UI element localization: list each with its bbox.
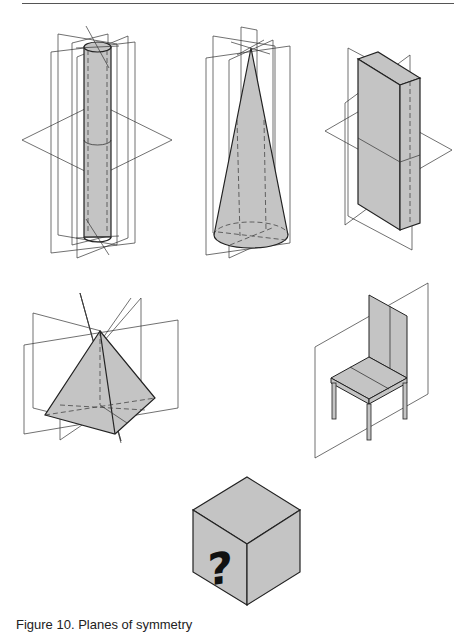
chair-figure [315,283,428,458]
figure-caption: Figure 10. Planes of symmetry [16,617,192,632]
prism-figure [325,48,452,250]
cylinder-figure [22,26,172,258]
question-mark-icon: ? [207,541,233,595]
cone-figure [206,27,290,258]
pyramid-figure [24,293,178,443]
